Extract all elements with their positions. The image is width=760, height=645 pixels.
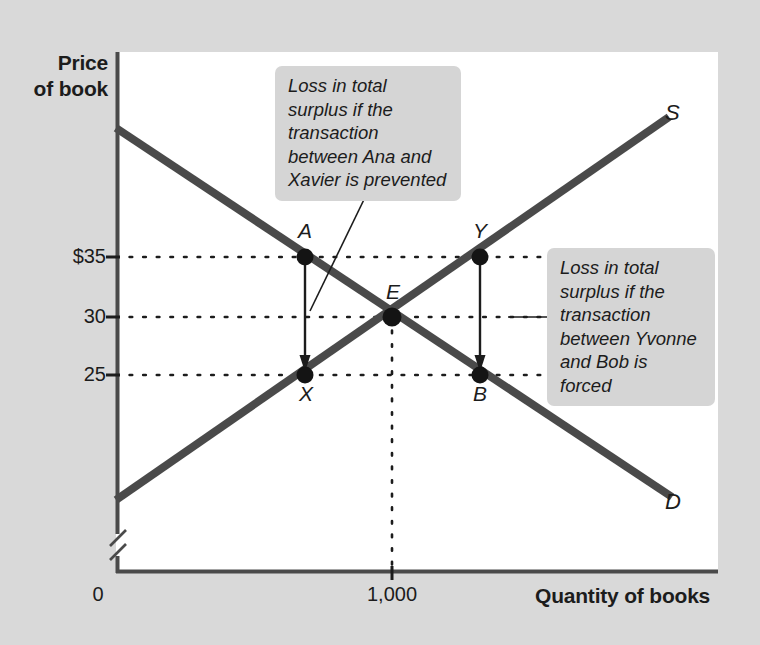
y-axis-title: Price of book [0, 50, 108, 102]
point-label-b: B [473, 382, 487, 406]
y-tick-label-25: 25 [36, 363, 106, 386]
x-tick-label-1000: 1,000 [347, 583, 437, 606]
supply-demand-figure: Price of book Quantity of books $35 30 2… [0, 0, 760, 645]
point-e [383, 308, 402, 327]
point-x [297, 367, 314, 384]
point-b [472, 367, 489, 384]
point-label-a: A [298, 219, 312, 243]
y-tick-label-30: 30 [36, 305, 106, 328]
callout-yvonne-bob: Loss in total surplus if the transaction… [547, 248, 715, 406]
y-axis-title-line2: of book [0, 76, 108, 102]
supply-curve-label: S [665, 100, 680, 126]
point-label-x: X [299, 382, 313, 406]
y-tick-label-35: $35 [36, 245, 106, 268]
y-axis-title-line1: Price [0, 50, 108, 76]
point-y [472, 249, 489, 266]
point-label-e: E [386, 280, 400, 304]
callout-ana-xavier: Loss in total surplus if the transaction… [275, 66, 461, 201]
demand-curve-label: D [665, 489, 681, 515]
x-axis-title: Quantity of books [535, 583, 710, 609]
point-label-y: Y [473, 219, 487, 243]
point-a [297, 249, 314, 266]
x-tick-label-0: 0 [78, 583, 118, 606]
